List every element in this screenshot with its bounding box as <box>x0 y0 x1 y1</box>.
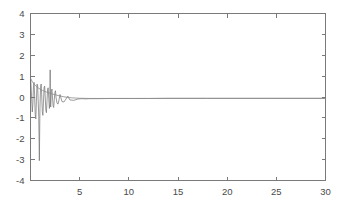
figure-background <box>0 0 344 208</box>
y-tick-label: -1 <box>16 112 24 123</box>
x-tick-label: 25 <box>271 186 282 197</box>
x-tick-label: 20 <box>222 186 233 197</box>
y-tick-label: -3 <box>16 154 24 165</box>
plot-canvas: 51015202530 -4-3-2-101234 <box>0 0 344 208</box>
x-tick-label: 10 <box>124 186 135 197</box>
y-tick-label: 4 <box>19 8 24 19</box>
x-tick-label: 5 <box>77 186 82 197</box>
y-tick-label: -2 <box>16 133 24 144</box>
y-tick-label: 3 <box>19 29 24 40</box>
figure-container: 51015202530 -4-3-2-101234 <box>0 0 344 208</box>
y-tick-label: 0 <box>19 92 24 103</box>
y-tick-label: 2 <box>19 50 24 61</box>
y-tick-label: 1 <box>19 71 24 82</box>
x-tick-label: 30 <box>320 186 331 197</box>
x-tick-label: 15 <box>173 186 184 197</box>
y-tick-label: -4 <box>16 175 24 186</box>
